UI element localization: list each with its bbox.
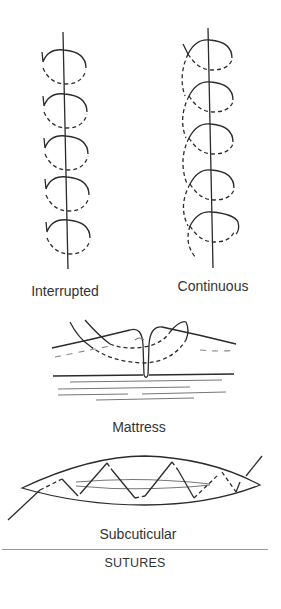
mattress-label: Mattress xyxy=(112,419,166,435)
continuous-suture-drawing xyxy=(182,28,239,268)
interrupted-label: Interrupted xyxy=(31,283,99,299)
interrupted-suture-drawing xyxy=(42,32,90,269)
mattress-suture-drawing xyxy=(52,320,236,400)
sutures-diagram xyxy=(0,0,281,609)
caption-divider xyxy=(2,549,268,550)
figure-caption: SUTURES xyxy=(104,556,165,570)
subcuticular-label: Subcuticular xyxy=(99,526,176,542)
continuous-label: Continuous xyxy=(178,278,249,294)
subcuticular-suture-drawing xyxy=(8,456,262,520)
